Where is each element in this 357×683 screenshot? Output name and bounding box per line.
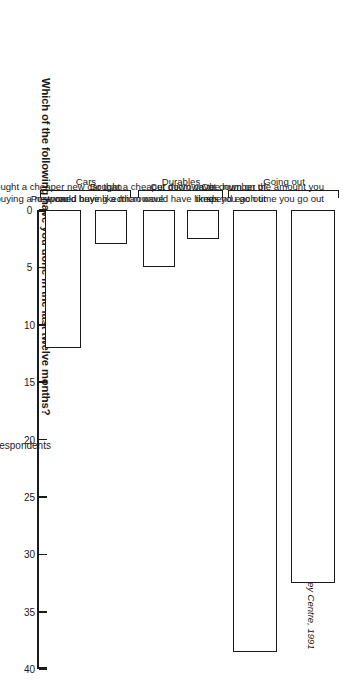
- group-label-durables: Durables: [162, 176, 200, 187]
- bar-5: [95, 210, 127, 244]
- axis-tick-label-30: 30: [20, 549, 40, 560]
- axis-tick-label-0: 0: [20, 205, 40, 216]
- group-bracket-tick-1-1: [338, 190, 339, 198]
- axis-tick-25: [39, 496, 47, 498]
- axis-tick-label-15: 15: [20, 377, 40, 388]
- axis-tick-label-10: 10: [20, 319, 40, 330]
- axis-tick-20: [39, 439, 47, 441]
- group-bracket-tick-1-2: [228, 190, 229, 198]
- axis-tick-15: [39, 381, 47, 383]
- group-bracket-tick-3-1: [130, 190, 131, 198]
- axis-tick-label-25: 25: [20, 492, 40, 503]
- axis-tick-label-40: 40: [20, 664, 40, 675]
- group-bracket-tick-2-2: [138, 190, 139, 198]
- group-label-going-out: Going out: [263, 176, 305, 187]
- bar-2: [233, 210, 277, 652]
- group-bracket-tick-2-1: [222, 190, 223, 198]
- group-bracket-2: [139, 190, 223, 191]
- bar-3: [187, 210, 219, 239]
- axis-tick-label-20: 20: [20, 434, 40, 445]
- axis-tick-label-5: 5: [20, 262, 40, 273]
- plot-area: % of respondents 0510152025303540Cut dow…: [0, 0, 357, 683]
- bar-label-line1-6: Postponed buying a new car: [0, 193, 68, 205]
- axis-tick-35: [39, 611, 47, 613]
- group-bracket-tick-3-2: [40, 190, 41, 198]
- axis-tick-30: [39, 554, 47, 556]
- axis-tick-40: [39, 668, 47, 670]
- bar-4: [143, 210, 175, 267]
- group-bracket-1: [229, 190, 339, 191]
- group-label-cars: Cars: [76, 176, 96, 187]
- bar-1: [291, 210, 335, 583]
- bar-6: [45, 210, 81, 348]
- chart-figure: Which of the following have you done in …: [0, 0, 357, 683]
- axis-tick-label-35: 35: [20, 606, 40, 617]
- group-bracket-3: [41, 190, 131, 191]
- bar-label-6: Postponed buying a new car: [0, 193, 68, 205]
